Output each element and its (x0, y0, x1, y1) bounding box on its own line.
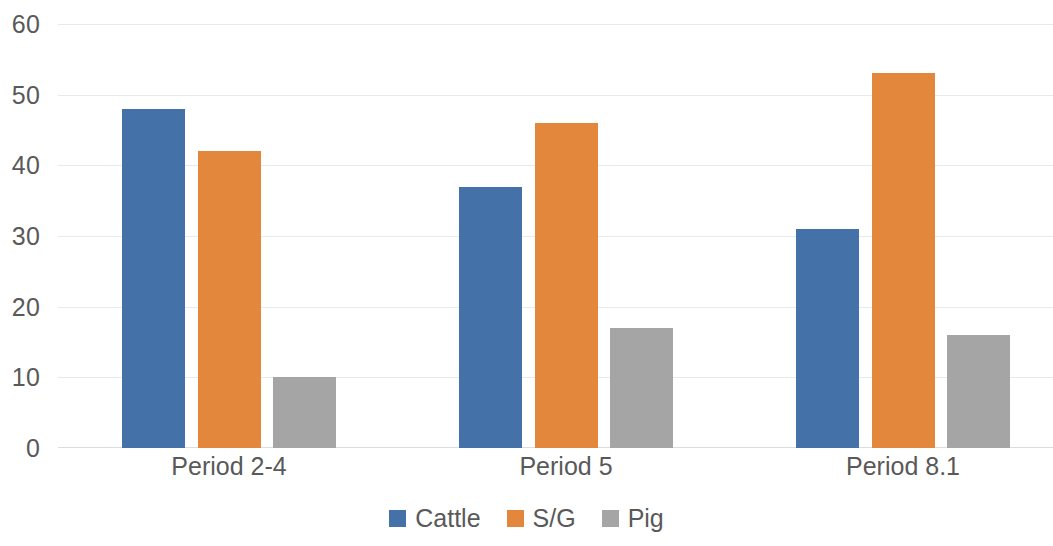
bar-cattle-period-8-1 (796, 229, 859, 448)
bar-cattle-period-2-4 (122, 109, 185, 448)
plot-area (58, 24, 1053, 448)
legend-item-pig[interactable]: Pig (602, 506, 664, 531)
x-axis-label-period-5: Period 5 (519, 452, 612, 481)
bar-sg-period-2-4 (198, 151, 261, 448)
legend-label-sg: S/G (533, 506, 576, 531)
gridline-60 (58, 24, 1053, 25)
legend-swatch-pig-icon (602, 510, 619, 527)
bar-pig-period-2-4 (273, 377, 336, 448)
y-axis-tick-0: 0 (26, 434, 40, 463)
y-axis-tick-30: 30 (12, 222, 40, 251)
legend-label-pig: Pig (628, 506, 664, 531)
legend-swatch-cattle-icon (389, 510, 406, 527)
bar-cattle-period-5 (459, 187, 522, 448)
y-axis-tick-20: 20 (12, 292, 40, 321)
legend-label-cattle: Cattle (415, 506, 480, 531)
bar-sg-period-8-1 (872, 73, 935, 448)
legend: Cattle S/G Pig (0, 506, 1053, 531)
bar-pig-period-5 (610, 328, 673, 448)
y-axis-tick-10: 10 (12, 363, 40, 392)
y-axis-tick-60: 60 (12, 10, 40, 39)
legend-item-sg[interactable]: S/G (507, 506, 576, 531)
legend-item-cattle[interactable]: Cattle (389, 506, 480, 531)
legend-swatch-sg-icon (507, 510, 524, 527)
bar-sg-period-5 (535, 123, 598, 448)
y-axis-tick-40: 40 (12, 151, 40, 180)
y-axis-tick-50: 50 (12, 80, 40, 109)
x-axis: Period 2-4 Period 5 Period 8.1 (58, 452, 1053, 492)
x-axis-label-period-2-4: Period 2-4 (171, 452, 286, 481)
x-axis-label-period-8-1: Period 8.1 (846, 452, 960, 481)
bar-chart: 60 50 40 30 20 10 0 Period 2-4 Period 5 … (0, 0, 1053, 546)
bar-pig-period-8-1 (947, 335, 1010, 448)
y-axis: 60 50 40 30 20 10 0 (0, 0, 58, 460)
